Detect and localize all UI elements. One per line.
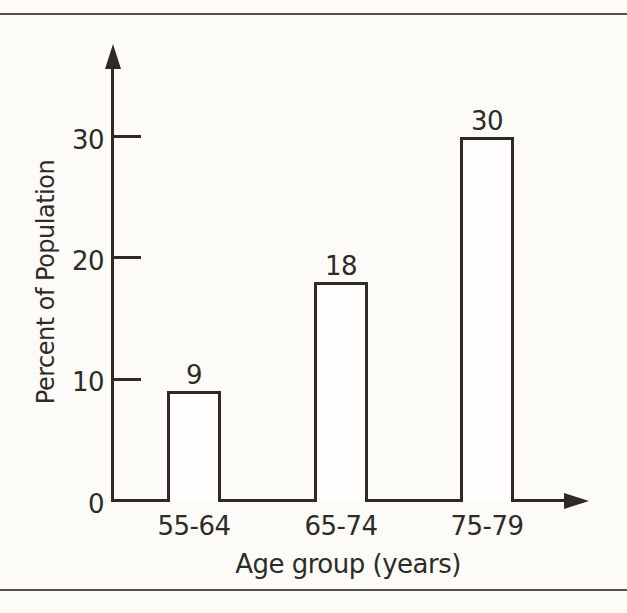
bar-55-64 [167,391,221,502]
category-label: 75-79 [427,513,547,539]
x-axis-arrowhead-icon [564,493,589,509]
scanned-book-page: 0102030 91830 55-6465-7475-79 Percent of… [0,0,627,613]
y-tick-label: 0 [44,491,104,517]
x-axis-title: Age group (years) [168,551,528,577]
y-axis-line [111,58,114,502]
bar-chart: 0102030 91830 55-6465-7475-79 Percent of… [0,0,627,613]
bar-value-label: 30 [447,108,527,134]
category-label: 65-74 [281,513,401,539]
y-tick-mark [113,256,141,259]
y-tick-mark [113,378,141,381]
y-axis-arrowhead-icon [105,44,121,69]
bar-65-74 [314,282,368,502]
bar-75-79 [460,137,514,502]
y-tick-label: 30 [44,127,104,153]
bottom-rule [0,589,627,591]
bar-value-label: 9 [154,362,234,388]
bar-value-label: 18 [301,253,381,279]
category-label: 55-64 [134,513,254,539]
y-tick-mark [113,135,141,138]
